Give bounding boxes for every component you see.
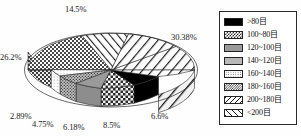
legend-item-100-80: 100~80目: [224, 28, 293, 41]
legend-item-200-180: 200~180目: [224, 93, 293, 106]
legend-swatch-diagonal-narrow-icon: [224, 96, 243, 104]
pct-label-26-2: 26.2%: [0, 52, 21, 62]
legend-swatch-diagonal-wide-icon: [224, 109, 243, 117]
legend-item-lt200: <200目: [224, 106, 293, 119]
legend-label-gt80: >80目: [247, 17, 267, 26]
pct-label-14-5: 14.5%: [65, 4, 86, 14]
legend-label-160-140: 160~140目: [247, 69, 282, 78]
pct-label-4-75: 4.75%: [32, 119, 53, 129]
legend-item-160-140: 160~140目: [224, 67, 293, 80]
legend-label-lt200: <200目: [247, 108, 271, 117]
legend-item-gt80: >80目: [224, 15, 293, 28]
pct-label-2-89: 2.89%: [10, 111, 31, 121]
legend-swatch-checkerboard-icon: [224, 31, 243, 39]
pie-chart: 14.5% 26.2% 30.38% 2.89% 4.75% 6.18% 8.5…: [8, 8, 208, 132]
legend-swatch-fine-checker-icon: [224, 83, 243, 91]
legend-swatch-light-dots-icon: [224, 70, 243, 78]
legend-item-120-100: 120~100目: [224, 41, 293, 54]
legend-swatch-solid-gray-icon: [224, 44, 243, 52]
legend-swatch-solid-black-icon: [224, 18, 243, 26]
chart-legend: >80目 100~80目 120~100目 140~120目 160~140目 …: [219, 11, 297, 125]
legend-item-180-160: 180~160目: [224, 80, 293, 93]
pct-label-8-5: 8.5%: [103, 120, 120, 130]
legend-label-120-100: 120~100目: [247, 43, 282, 52]
legend-label-140-120: 140~120目: [247, 56, 282, 65]
pct-label-6-18: 6.18%: [63, 122, 84, 132]
legend-label-180-160: 180~160目: [247, 82, 282, 91]
chart-canvas: 14.5% 26.2% 30.38% 2.89% 4.75% 6.18% 8.5…: [0, 0, 301, 136]
pie-chart-svg: [8, 8, 208, 132]
legend-label-100-80: 100~80目: [247, 30, 278, 39]
legend-label-200-180: 200~180目: [247, 95, 282, 104]
legend-item-140-120: 140~120目: [224, 54, 293, 67]
legend-swatch-dense-speckle-icon: [224, 57, 243, 65]
pct-label-30-38: 30.38%: [171, 32, 197, 42]
pct-label-6-6: 6.6%: [151, 111, 168, 121]
